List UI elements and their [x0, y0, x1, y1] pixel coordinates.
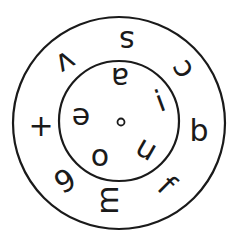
outer-letter-f: f	[151, 169, 184, 202]
center-dot	[118, 119, 125, 126]
outer-letter-c: c	[162, 54, 201, 86]
outer-letter-m: m	[90, 185, 125, 214]
inner-letter-o: o	[91, 138, 109, 173]
letter-wheel-diagram: s c b f m 9 + v a i u o e	[0, 0, 237, 250]
outer-letter-9: 9	[48, 161, 82, 201]
outer-letter-s: s	[119, 24, 135, 59]
inner-ring-letters: a i u o e	[72, 61, 170, 173]
outer-letter-b: b	[189, 113, 208, 148]
inner-letter-e: e	[72, 101, 90, 136]
inner-letter-a: a	[111, 61, 129, 96]
outer-letter-plus: +	[28, 108, 53, 143]
outer-letter-v: v	[50, 43, 83, 82]
inner-letter-i: i	[150, 83, 170, 119]
inner-letter-u: u	[130, 128, 164, 168]
